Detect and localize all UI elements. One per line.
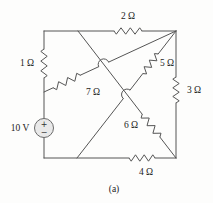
wire-branch-7ohm-mid (80, 67, 98, 76)
resistor-2ohm (114, 28, 142, 34)
label-7ohm: 7 Ω (86, 87, 100, 97)
resistor-4ohm (129, 155, 155, 161)
wire-branch-7ohm-start (44, 88, 53, 92)
label-2ohm: 2 Ω (121, 11, 135, 21)
circuit-figure: + − 2 Ω 1 Ω 7 Ω 5 Ω 3 Ω 6 Ω 4 Ω 10 V (a) (0, 0, 213, 203)
crossover-hop-7ohm (98, 59, 109, 67)
wire-branch-6ohm-lower (160, 137, 176, 158)
resistor-3ohm (173, 77, 179, 103)
source-minus-sign: − (41, 128, 48, 137)
resistor-7ohm (53, 73, 80, 89)
wire-branch-6ohm-upper (78, 31, 142, 114)
label-3ohm: 3 Ω (187, 85, 201, 95)
circuit-diagram: + − 2 Ω 1 Ω 7 Ω 5 Ω 3 Ω 6 Ω 4 Ω 10 V (a) (0, 0, 213, 203)
label-5ohm: 5 Ω (160, 58, 174, 68)
resistor-1ohm (41, 49, 47, 78)
resistor-6ohm (141, 114, 161, 137)
wire-branch-5ohm-mid (130, 74, 143, 90)
figure-caption: (a) (109, 184, 120, 195)
label-1ohm: 1 Ω (20, 58, 34, 68)
resistor-5ohm (143, 54, 158, 74)
label-4ohm: 4 Ω (139, 167, 153, 177)
wire-branch-5ohm-start (77, 99, 123, 158)
label-6ohm: 6 Ω (124, 120, 138, 130)
label-voltage-source: 10 V (11, 123, 30, 133)
wire-branch-5ohm-end (158, 31, 176, 54)
